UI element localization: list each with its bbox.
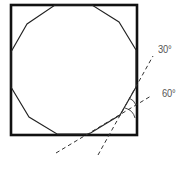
construction-line-30: [98, 56, 153, 155]
angle-label-60: 60°: [162, 87, 175, 99]
angle-label-30: 30°: [158, 43, 171, 55]
angle-arc-upper: [129, 98, 136, 105]
angle-arc-lower: [125, 108, 135, 118]
geometry-diagram: 30° 60°: [0, 0, 188, 172]
inscribed-dodecagon: [11, 5, 136, 134]
diagram-canvas: [0, 0, 188, 172]
